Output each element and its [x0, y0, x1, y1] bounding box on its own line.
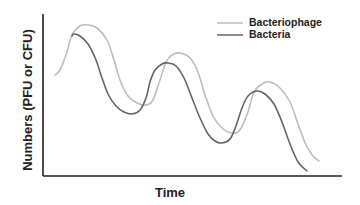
bacteria-line	[72, 34, 307, 171]
legend-label-bacteria: Bacteria	[249, 28, 290, 40]
legend-label-bacteriophage: Bacteriophage	[249, 16, 322, 28]
y-axis-label: Numbers (PFU or CFU)	[20, 29, 35, 171]
bacteriophage-line	[55, 25, 319, 161]
x-axis-label: Time	[155, 185, 185, 200]
line-chart	[0, 0, 360, 205]
